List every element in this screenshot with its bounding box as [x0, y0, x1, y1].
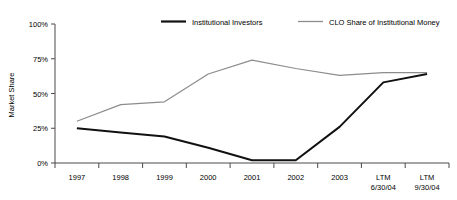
- legend-label-institutional-investors: Institutional Investors: [192, 18, 263, 27]
- x-tick-label: LTM: [376, 173, 390, 182]
- x-tick-label: LTM: [420, 173, 434, 182]
- y-tick-label: 25%: [33, 124, 48, 133]
- market-share-line-chart: Market Share 100% 75% 50% 25% 0%: [0, 0, 457, 200]
- x-axis-labels: 1997 1998 1999 2000 2001 2002 2003 LTM 6…: [69, 173, 440, 192]
- y-tick-label: 0%: [37, 159, 48, 168]
- legend-label-clo-share: CLO Share of Institutional Money: [329, 18, 440, 27]
- x-tick-label: 2000: [200, 173, 217, 182]
- chart-legend: Institutional Investors CLO Share of Ins…: [161, 18, 440, 27]
- chart-canvas: Market Share 100% 75% 50% 25% 0%: [0, 0, 457, 200]
- y-tick-label: 100%: [29, 20, 49, 29]
- y-tick-label: 50%: [33, 90, 48, 99]
- y-axis-title-text: Market Share: [7, 72, 16, 117]
- x-tick-label: 2003: [331, 173, 348, 182]
- y-axis: 100% 75% 50% 25% 0%: [29, 20, 55, 168]
- y-tick-label: 75%: [33, 55, 48, 64]
- x-tick-label-sub: 9/30/04: [415, 183, 440, 192]
- y-axis-title: Market Share: [7, 72, 16, 117]
- series-group: [77, 60, 427, 160]
- x-tick-label-sub: 6/30/04: [371, 183, 396, 192]
- x-tick-label: 1998: [112, 173, 129, 182]
- series-line-institutional-investors: [77, 74, 427, 160]
- x-tick-label: 1999: [156, 173, 173, 182]
- x-axis: [55, 163, 449, 168]
- x-tick-label: 2001: [244, 173, 261, 182]
- x-tick-label: 2002: [287, 173, 304, 182]
- x-tick-label: 1997: [69, 173, 86, 182]
